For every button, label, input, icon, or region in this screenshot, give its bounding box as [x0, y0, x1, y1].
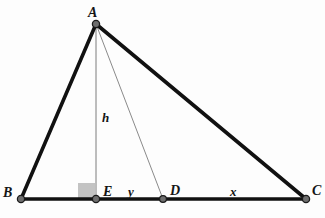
measure-label-height: h [102, 111, 109, 124]
measure-label-y: y [128, 185, 134, 198]
vertex-dot-A [92, 20, 99, 27]
vertex-dot-E [92, 195, 99, 202]
geometry-figure: A B E D C h y x [0, 0, 325, 218]
vertex-label-C: C [312, 184, 321, 198]
figure-canvas [0, 0, 325, 218]
vertex-label-B: B [3, 186, 12, 200]
triangle-side-AB [21, 24, 96, 199]
vertex-dot-B [17, 195, 24, 202]
measure-label-x: x [230, 185, 237, 198]
vertex-dot-D [160, 196, 167, 203]
vertex-label-D: D [170, 184, 180, 198]
vertex-label-A: A [88, 6, 97, 20]
vertex-dot-C [302, 195, 309, 202]
vertex-label-E: E [103, 185, 112, 199]
right-angle-marker-icon [78, 183, 95, 199]
triangle-side-AC [96, 24, 306, 199]
